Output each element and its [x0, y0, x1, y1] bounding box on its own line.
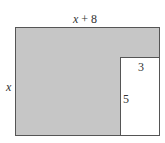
- outer-width-label: x + 8: [73, 13, 97, 25]
- inner-width-label: 3: [138, 61, 144, 73]
- width-constant: + 8: [78, 12, 97, 26]
- inner-height-label: 5: [123, 93, 129, 105]
- outer-height-label: x: [6, 81, 11, 93]
